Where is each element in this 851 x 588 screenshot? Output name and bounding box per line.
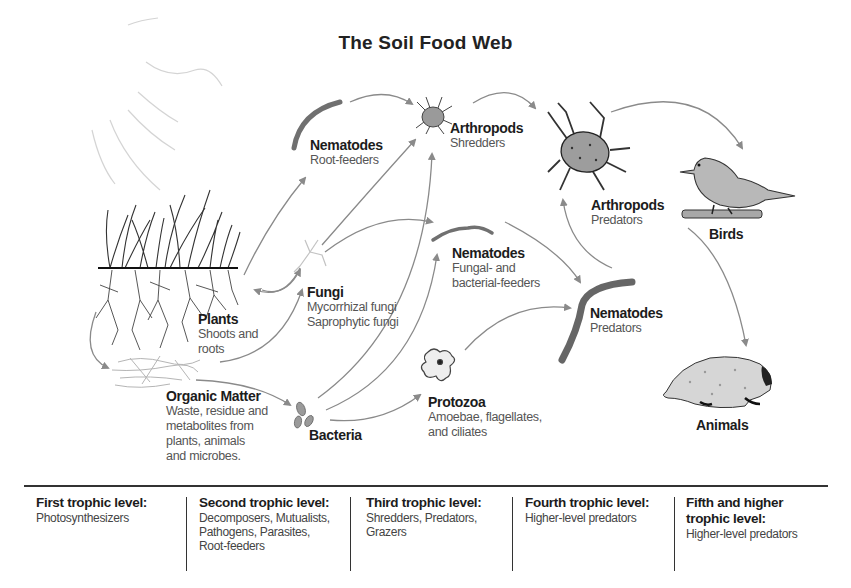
fungal-hyphae-icon <box>294 240 326 272</box>
trophic-level-1: First trophic level: Photosynthesizers <box>36 495 147 525</box>
label-plants: Plants Shoots and roots <box>198 312 258 357</box>
trophic-level-3: Third trophic level: Shredders, Predator… <box>366 495 482 539</box>
label-bacteria: Bacteria <box>309 428 362 443</box>
legend-separator <box>350 497 351 571</box>
label-nematodes-root-feeders: Nematodes Root-feeders <box>310 138 383 168</box>
label-arthropods-shredders: Arthropods Shredders <box>450 121 523 151</box>
amoeba-icon <box>421 349 454 381</box>
label-nematodes-predators: Nematodes Predators <box>590 306 663 336</box>
sunlight-squiggles-icon <box>92 18 222 190</box>
trophic-level-2: Second trophic level: Decomposers, Mutua… <box>199 495 330 553</box>
label-nematodes-fungal-bacterial-feeders: Nematodes Fungal- and bacterial-feeders <box>452 246 540 291</box>
label-birds: Birds <box>709 227 743 242</box>
trophic-level-4: Fourth trophic level: Higher-level preda… <box>525 495 649 525</box>
mite-icon <box>548 102 630 190</box>
legend-divider <box>24 485 828 487</box>
legend-separator <box>512 497 513 571</box>
mite-icon <box>416 97 452 134</box>
leaf-litter-icon <box>112 356 200 387</box>
trophic-level-legend: First trophic level: Photosynthesizers S… <box>36 495 828 575</box>
legend-separator <box>674 497 675 571</box>
trophic-level-5: Fifth and higher trophic level: Higher-l… <box>686 495 797 541</box>
energy-flow-arrows <box>90 93 746 421</box>
mole-icon <box>663 357 772 408</box>
bacteria-cells-icon <box>294 401 316 428</box>
bird-on-branch-icon <box>680 158 795 218</box>
label-animals: Animals <box>696 418 748 433</box>
worm-icon <box>433 227 492 240</box>
label-organic-matter: Organic Matter Waste, residue and metabo… <box>166 389 268 464</box>
legend-separator <box>186 497 187 571</box>
label-fungi: Fungi Mycorrhizal fungi Saprophytic fung… <box>307 285 399 330</box>
label-protozoa: Protozoa Amoebae, flagellates, and cilia… <box>428 395 542 440</box>
label-arthropods-predators: Arthropods Predators <box>591 198 664 228</box>
